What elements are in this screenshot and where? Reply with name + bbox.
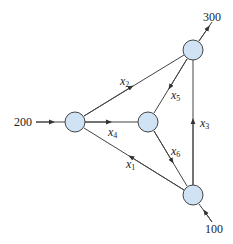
inflow-label-200: 200 [14, 116, 32, 128]
label-x6: x6 [171, 145, 180, 159]
node-top-right [183, 40, 203, 60]
node-left [65, 112, 85, 132]
outflow-label-300: 300 [203, 11, 221, 23]
node-bottom-right [183, 185, 203, 205]
label-x2: x2 [120, 75, 129, 89]
label-x4: x4 [108, 126, 117, 140]
node-center [138, 112, 158, 132]
network-diagram [0, 0, 233, 244]
label-x5: x5 [171, 89, 180, 103]
inflow-label-100: 100 [205, 223, 223, 235]
label-x3: x3 [200, 117, 209, 131]
label-x1: x1 [126, 158, 135, 172]
